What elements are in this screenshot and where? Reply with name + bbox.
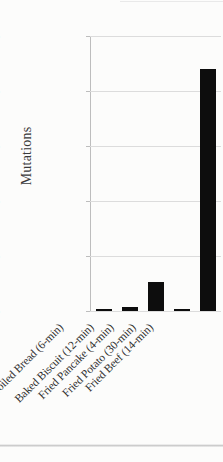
page-divider-rule xyxy=(0,444,223,447)
bar-series xyxy=(91,36,221,311)
bar-fried-potato xyxy=(174,309,190,311)
y-tick-mark-0 xyxy=(86,311,90,312)
y-tick-mark-20000 xyxy=(86,91,90,92)
bar-broiled-bread xyxy=(96,309,112,311)
gridline-0 xyxy=(90,311,221,312)
bar-cell xyxy=(91,36,117,311)
bar-cell xyxy=(169,36,195,311)
scan-artifact-top xyxy=(120,1,223,2)
y-axis-title: Mutations xyxy=(19,96,35,216)
bar-chart-figure: Mutations 25000 20000 15000 10000 5000 0… xyxy=(0,0,223,462)
y-tick-mark-10000 xyxy=(86,201,90,202)
bar-cell xyxy=(143,36,169,311)
bar-fried-pancake xyxy=(148,282,164,311)
y-tick-mark-5000 xyxy=(86,256,90,257)
bar-fried-beef xyxy=(200,69,216,311)
y-tick-mark-25000 xyxy=(86,36,90,37)
x-axis-labels: Broiled Bread (6-min) Baked Biscuit (12-… xyxy=(0,313,223,443)
bar-baked-biscuit xyxy=(122,307,138,311)
bar-cell xyxy=(195,36,221,311)
plot-area xyxy=(90,36,221,311)
y-tick-mark-15000 xyxy=(86,146,90,147)
bar-cell xyxy=(117,36,143,311)
